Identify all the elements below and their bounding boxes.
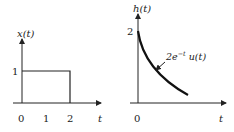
exponential-decay-curve xyxy=(138,31,188,95)
y-tick-2: 2 xyxy=(127,26,133,37)
pulse-signal xyxy=(22,71,70,103)
x-tick-2: 2 xyxy=(67,113,73,124)
x-axis-label: t xyxy=(219,113,224,124)
annotation-arrow xyxy=(156,62,165,70)
x-tick-1: 1 xyxy=(43,113,49,124)
plot-impulse-response: h(t) 2 0 t 2e−t u(t) xyxy=(127,3,226,124)
x-tick-0: 0 xyxy=(18,113,24,124)
y-axis-label: h(t) xyxy=(133,3,151,14)
curve-annotation: 2e−t u(t) xyxy=(165,50,206,62)
plot-input-signal: x(t) 1 0 1 2 t xyxy=(12,28,103,124)
x-tick-0: 0 xyxy=(134,113,140,124)
y-tick-1: 1 xyxy=(12,66,18,77)
y-axis-label: x(t) xyxy=(17,28,35,39)
figure: x(t) 1 0 1 2 t h(t) 2 0 t 2e−t u(t) xyxy=(0,0,234,132)
x-axis-label: t xyxy=(98,113,103,124)
